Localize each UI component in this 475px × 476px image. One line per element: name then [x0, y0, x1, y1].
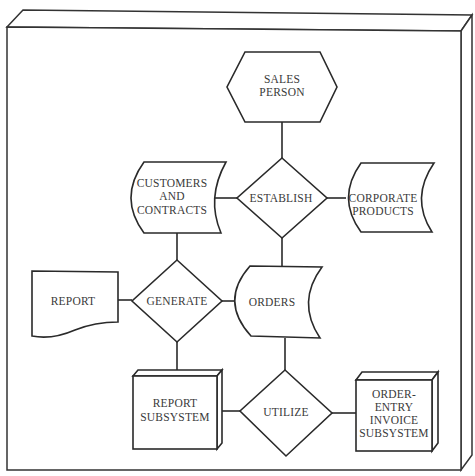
node-label: ENTRY: [375, 401, 414, 413]
node-label: ORDERS: [249, 296, 296, 308]
node-label: SUBSYSTEM: [140, 411, 210, 423]
node-label: SALES: [264, 73, 300, 85]
node-label: REPORT: [153, 397, 198, 409]
node-label: UTILIZE: [263, 406, 308, 418]
node-orders[interactable]: ORDERS: [235, 266, 322, 338]
node-label: ESTABLISH: [250, 192, 313, 204]
box-top-face: [133, 370, 222, 376]
frame-right-face: [461, 15, 472, 470]
node-label: GENERATE: [146, 295, 207, 307]
node-customers-and-contracts[interactable]: CUSTOMERS AND CONTRACTS: [131, 162, 226, 233]
node-label: CORPORATE: [349, 192, 418, 204]
node-report-subsystem[interactable]: REPORT SUBSYSTEM: [133, 370, 222, 449]
diagram-canvas: SALES PERSON ESTABLISH CUSTOMERS AND CON…: [0, 0, 475, 476]
node-label: SUBSYSTEM: [359, 427, 429, 439]
node-corporate-products[interactable]: CORPORATE PRODUCTS: [349, 163, 435, 232]
box-top-face: [356, 372, 438, 380]
node-label: REPORT: [51, 295, 96, 307]
node-label: AND: [159, 190, 185, 202]
node-order-entry-invoice-subsystem[interactable]: ORDER- ENTRY INVOICE SUBSYSTEM: [356, 372, 438, 451]
node-label: PRODUCTS: [352, 205, 414, 217]
node-sales-person[interactable]: SALES PERSON: [227, 52, 337, 122]
node-label: ORDER-: [372, 388, 416, 400]
node-label: INVOICE: [370, 414, 419, 426]
node-label: CUSTOMERS: [137, 177, 208, 189]
node-label: PERSON: [259, 86, 305, 98]
node-label: CONTRACTS: [137, 204, 207, 216]
box-side-face: [432, 372, 438, 451]
